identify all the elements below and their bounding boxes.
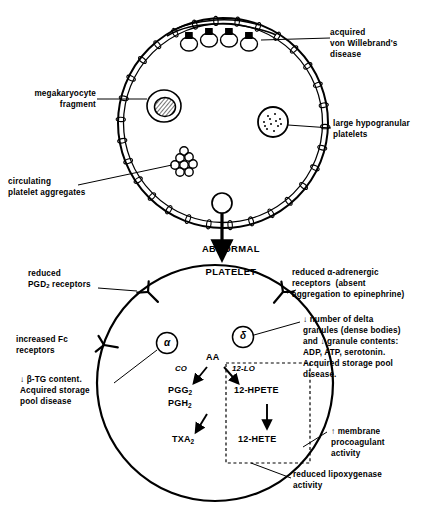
label-megakaryocyte-fragment: megakaryocyte fragment xyxy=(0,89,96,111)
abnormal-line2: PLATELET xyxy=(206,266,257,277)
pathway-pgh2: PGH2 xyxy=(168,398,192,409)
label-membrane-procoagulant: ↑ membrane procoagulant activity xyxy=(331,427,385,460)
pathway-txa2: TXA2 xyxy=(172,434,194,445)
pathway-enzyme-12lo: 12-LO xyxy=(232,364,255,373)
megakaryocyte-fragment-icon xyxy=(147,90,181,122)
label-beta-tg-content: ↓ β-TG content. Acquired storage pool di… xyxy=(20,375,90,408)
leader-lines-bottom xyxy=(98,288,327,478)
txa2-base: TXA xyxy=(172,434,191,444)
label-circulating-platelet-aggregates: circulating platelet aggregates xyxy=(8,177,85,199)
top-cell-membrane xyxy=(116,16,330,230)
pgd2-base: PGD xyxy=(28,280,46,289)
normal-platelet-icon xyxy=(212,193,232,213)
abnormal-line1: ABNORMAL xyxy=(202,243,260,254)
pgh2-base: PGH xyxy=(168,398,188,408)
pathway-arrows xyxy=(194,367,267,432)
label-large-hypogranular-platelets: large hypogranular platelets xyxy=(333,119,410,141)
abnormal-platelet-caption: ABNORMAL PLATELET xyxy=(191,232,265,277)
txa2-sub: 2 xyxy=(191,438,195,445)
label-increased-fc-receptors: increased Fc receptors xyxy=(16,335,68,357)
label-acquired-von-willebrand: acquired von Willebrand's disease xyxy=(330,28,398,61)
label-reduced-lipoxygenase: reduced lipoxygenase activity xyxy=(293,470,382,492)
pathway-aa: AA xyxy=(206,352,219,362)
lipoxygenase-pathway-box xyxy=(226,363,310,463)
pgd2-line1: reduced xyxy=(28,269,61,278)
delta-granule-symbol: δ xyxy=(235,330,251,341)
large-hypogranular-platelet-icon xyxy=(258,107,288,137)
alpha-granule-symbol: α xyxy=(159,337,175,348)
pgg2-base: PGG xyxy=(168,385,189,395)
pgh2-sub: 2 xyxy=(188,402,192,409)
leader-lines-top xyxy=(78,38,331,185)
receptor-icons xyxy=(96,281,294,355)
pathway-12hete: 12-HETE xyxy=(238,434,276,444)
pgd2-suffix: receptors xyxy=(50,280,91,289)
label-reduced-alpha-adrenergic: reduced α-adrenergic receptors (absent a… xyxy=(292,268,404,301)
platelet-diagram: acquired von Willebrand's disease megaka… xyxy=(0,0,447,513)
pathway-enzyme-co: CO xyxy=(175,364,187,373)
pgg2-sub: 2 xyxy=(189,389,193,396)
pathway-pgg2: PGG2 xyxy=(168,385,192,396)
platelet-aggregate-icon xyxy=(171,147,197,176)
label-reduced-pgd2-receptors: reducedPGD2 receptors xyxy=(28,269,91,291)
label-delta-granule-note: ↓ number of delta granules (dense bodies… xyxy=(303,315,401,380)
pathway-12hpete: 12-HPETE xyxy=(234,385,279,395)
